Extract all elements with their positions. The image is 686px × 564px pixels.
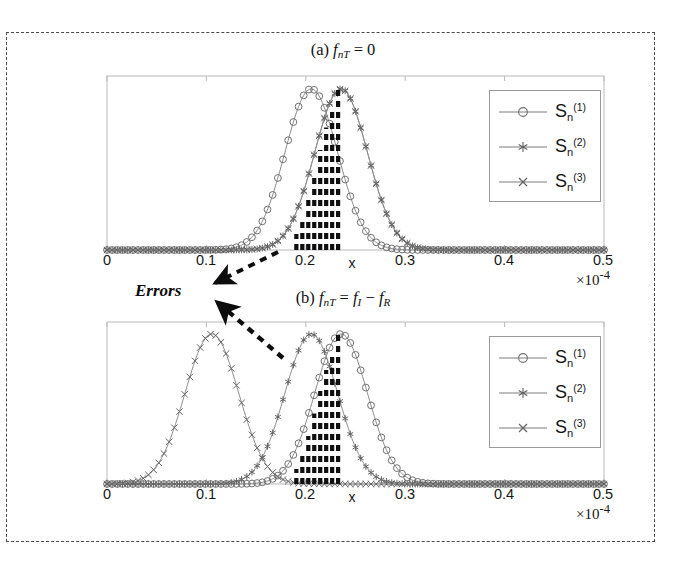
panel-a-tick-3: 0.3: [395, 252, 415, 268]
panel-b-legend-label-1: Sn(1): [555, 348, 586, 369]
panel-b-legend-label-2: Sn(2): [555, 383, 586, 404]
panel-b: (b) fnT = fI − fR 0 0.1 0.2 0.3 0.4 0.5 …: [0, 288, 686, 538]
panel-b-legend-row-3: Sn(3): [490, 413, 600, 443]
panel-b-exponent-base: ×10: [576, 506, 599, 522]
errors-label: Errors: [135, 281, 181, 301]
panel-b-x-axis-label: x: [349, 489, 356, 505]
asterisk-marker-icon: [497, 383, 549, 403]
panel-b-tick-0: 0: [103, 486, 111, 502]
circle-marker-icon: [497, 102, 549, 122]
panel-a: (a) fnT = 0 0 0.1 0.2 0.3 0.4 0.5 x ×10-…: [0, 40, 686, 290]
panel-a-legend-row-3: Sn(3): [490, 167, 600, 197]
panel-b-legend-row-1: Sn(1): [490, 343, 600, 373]
asterisk-marker-icon: [497, 137, 549, 157]
panel-b-legend-row-2: Sn(2): [490, 378, 600, 408]
panel-a-legend-label-2: Sn(2): [555, 137, 586, 158]
panel-a-exponent-label: ×10-4: [576, 268, 610, 289]
panel-b-tick-4: 0.4: [494, 486, 514, 502]
x-marker-icon: [497, 418, 549, 438]
panel-a-legend-row-2: Sn(2): [490, 132, 600, 162]
panel-a-tick-5: 0.5: [593, 252, 613, 268]
panel-a-tick-0: 0: [103, 252, 111, 268]
panel-b-exponent-label: ×10-4: [576, 502, 610, 523]
panel-b-tick-2: 0.2: [295, 486, 315, 502]
panel-b-tick-5: 0.5: [593, 486, 613, 502]
panel-a-tick-2: 0.2: [295, 252, 315, 268]
panel-b-legend-label-3: Sn(3): [555, 418, 586, 439]
panel-a-legend-label-3: Sn(3): [555, 172, 586, 193]
panel-b-tick-1: 0.1: [196, 486, 216, 502]
figure-root: (a) fnT = 0 0 0.1 0.2 0.3 0.4 0.5 x ×10-…: [0, 0, 686, 564]
panel-a-exponent-power: -4: [599, 268, 609, 282]
circle-marker-icon: [497, 348, 549, 368]
panel-b-legend: Sn(1) Sn(2): [489, 336, 601, 448]
panel-a-tick-1: 0.1: [196, 252, 216, 268]
panel-a-legend: Sn(1) Sn(2): [489, 90, 601, 202]
panel-a-exponent-base: ×10: [576, 272, 599, 288]
panel-a-legend-label-1: Sn(1): [555, 102, 586, 123]
panel-a-x-axis-label: x: [349, 255, 356, 271]
x-marker-icon: [497, 172, 549, 192]
panel-a-tick-4: 0.4: [494, 252, 514, 268]
panel-b-exponent-power: -4: [599, 502, 609, 516]
panel-b-tick-3: 0.3: [395, 486, 415, 502]
panel-a-legend-row-1: Sn(1): [490, 97, 600, 127]
